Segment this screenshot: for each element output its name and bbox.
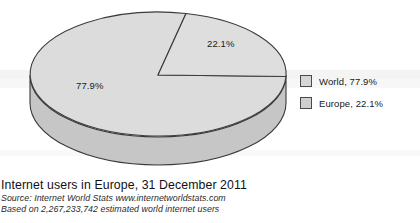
pie-chart: 22.1% 77.9% xyxy=(0,0,292,172)
caption-source-line: Source: Internet World Stats www.interne… xyxy=(1,193,419,204)
chart-legend: World, 77.9% Europe, 22.1% xyxy=(300,70,418,114)
legend-label-europe: Europe, 22.1% xyxy=(319,98,383,109)
caption-title: Internet users in Europe, 31 December 20… xyxy=(1,178,419,193)
chart-figure: 22.1% 77.9% World, 77.9% Europe, 22.1% I… xyxy=(0,0,420,223)
legend-item-world[interactable]: World, 77.9% xyxy=(300,70,418,92)
pie-chart-svg xyxy=(0,0,292,172)
legend-label-world: World, 77.9% xyxy=(319,76,377,87)
caption-basis-line: Based on 2,267,233,742 estimated world i… xyxy=(1,204,419,215)
figure-caption: Internet users in Europe, 31 December 20… xyxy=(1,178,419,215)
legend-swatch-icon xyxy=(300,97,312,109)
slice-label-europe: 22.1% xyxy=(207,38,234,49)
slice-label-world: 77.9% xyxy=(76,80,103,91)
legend-swatch-icon xyxy=(300,75,312,87)
legend-item-europe[interactable]: Europe, 22.1% xyxy=(300,92,418,114)
